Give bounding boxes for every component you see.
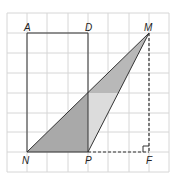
label-F: F — [146, 155, 153, 166]
label-D: D — [85, 22, 92, 33]
label-A: A — [23, 22, 31, 33]
geometry-diagram: A D M N P F — [0, 0, 181, 183]
right-angle-marker — [143, 146, 149, 152]
label-P: P — [85, 155, 92, 166]
label-N: N — [22, 155, 30, 166]
label-M: M — [144, 22, 153, 33]
